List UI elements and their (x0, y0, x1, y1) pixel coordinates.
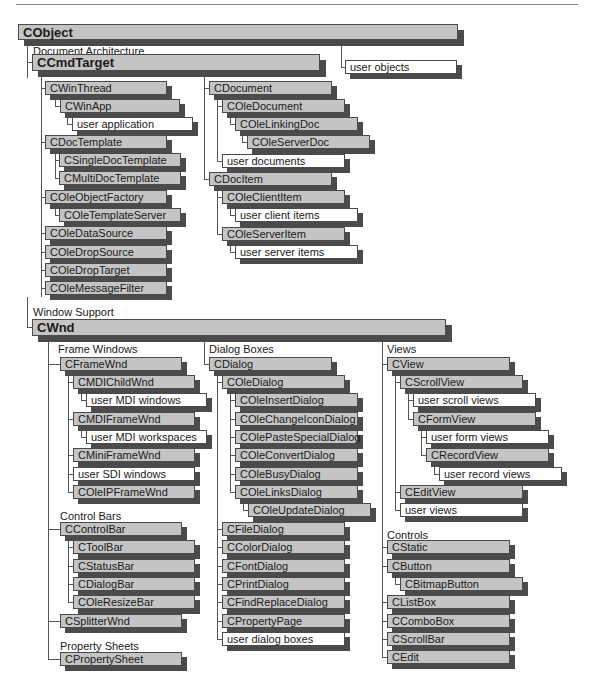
class-hierarchy-diagram: Document ArchitectureWindow SupportFrame… (0, 0, 594, 692)
class-box-cwinapp: CWinApp (60, 99, 180, 113)
class-box-coledatasource: COleDataSource (45, 226, 167, 240)
class-box-cdocument: CDocument (209, 81, 332, 95)
class-box-coledocument: COleDocument (222, 99, 345, 113)
class-box-cstatusbar: CStatusBar (73, 559, 195, 573)
class-box-user-dialog-boxes: user dialog boxes (222, 632, 345, 646)
class-box-clistbox: CListBox (387, 595, 510, 609)
class-box-cscrollview: CScrollView (400, 375, 523, 389)
connector-line (217, 371, 218, 639)
class-box-ctoolbar: CToolBar (73, 540, 195, 554)
class-box-user-mdi-windows: user MDI windows (86, 393, 207, 407)
class-box-user-objects: user objects (345, 60, 457, 74)
class-box-cdocitem: CDocItem (209, 172, 332, 186)
class-box-user-views: user views (400, 503, 523, 517)
connector-line (68, 536, 69, 602)
class-box-cpropertysheet: CPropertySheet (60, 652, 182, 666)
class-box-user-form-views: user form views (426, 430, 549, 444)
class-box-cfiledialog: CFileDialog (222, 522, 345, 536)
class-box-coleconvertdialog: COleConvertDialog (235, 448, 358, 462)
connector-line (395, 371, 396, 510)
class-box-user-server-items: user server items (235, 245, 358, 259)
class-box-cminiframewnd: CMiniFrameWnd (73, 448, 195, 462)
connector-line (382, 336, 383, 657)
class-box-cfontdialog: CFontDialog (222, 559, 345, 573)
connector-line (48, 659, 60, 660)
class-box-coleserverdoc: COleServerDoc (247, 135, 370, 149)
class-box-coleobjectfactory: COleObjectFactory (45, 190, 167, 204)
class-box-cdoctemplate: CDocTemplate (45, 135, 167, 149)
class-box-cscrollbar: CScrollBar (387, 632, 510, 646)
class-box-colemessagefilter: COleMessageFilter (45, 281, 167, 295)
group-label-dialog-boxes: Dialog Boxes (209, 343, 274, 355)
group-label-views: Views (387, 343, 416, 355)
class-box-user-record-views: user record views (439, 467, 562, 481)
header-rule (16, 4, 578, 5)
class-box-user-mdi-workspaces: user MDI workspaces (86, 430, 207, 444)
class-box-cmdiframewnd: CMDIFrameWnd (73, 412, 195, 426)
class-box-cbitmapbutton: CBitmapButton (400, 577, 523, 591)
class-box-coleclientitem: COleClientItem (222, 190, 345, 204)
class-box-colelinksdialog: COleLinksDialog (235, 485, 358, 499)
class-box-cdialogbar: CDialogBar (73, 577, 195, 591)
class-box-crecordview: CRecordView (426, 448, 549, 462)
class-box-cformview: CFormView (413, 412, 536, 426)
class-box-ccolordialog: CColorDialog (222, 540, 345, 554)
class-box-csplitterwnd: CSplitterWnd (60, 614, 182, 628)
class-box-user-scroll-views: user scroll views (413, 393, 536, 407)
class-box-cobject: CObject (18, 24, 458, 40)
class-box-cedit: CEdit (387, 650, 510, 664)
class-box-cstatic: CStatic (387, 540, 510, 554)
class-box-coledroptarget: COleDropTarget (45, 263, 167, 277)
class-box-cfindreplacedialog: CFindReplaceDialog (222, 595, 345, 609)
class-box-coletemplateserver: COleTemplateServer (59, 208, 181, 222)
class-box-cwnd: CWnd (32, 319, 446, 336)
class-box-colepastespecialdialog: COlePasteSpecialDialog (235, 430, 358, 444)
class-box-coledialog: COleDialog (222, 375, 345, 389)
class-box-cmdichildwnd: CMDIChildWnd (73, 375, 195, 389)
class-box-user-sdi-windows: user SDI windows (73, 467, 195, 481)
class-box-user-documents: user documents (222, 154, 345, 168)
class-box-cmultidoctemplate: CMultiDocTemplate (59, 171, 181, 185)
group-label-window-support: Window Support (33, 306, 114, 318)
group-label-frame-windows: Frame Windows (58, 343, 137, 355)
class-box-coledropsource: COleDropSource (45, 245, 167, 259)
connector-line (48, 621, 60, 622)
class-box-cwinthread: CWinThread (45, 81, 167, 95)
class-box-user-application: user application (72, 117, 193, 131)
class-box-cprintdialog: CPrintDialog (222, 577, 345, 591)
class-box-coleserveritem: COleServerItem (222, 227, 345, 241)
connector-line (48, 529, 60, 530)
class-box-cedittview: CEditView (400, 485, 523, 499)
class-box-user-client-items: user client items (235, 208, 358, 222)
class-box-colechangeicondialog: COleChangeIconDialog (235, 412, 358, 426)
connector-line (48, 336, 49, 659)
connector-line (217, 95, 218, 161)
class-box-colelinkingdoc: COleLinkingDoc (235, 117, 358, 131)
connector-line (27, 297, 28, 327)
group-label-control-bars: Control Bars (60, 510, 121, 522)
connector-line (230, 389, 231, 492)
class-box-coleresizebar: COleResizeBar (73, 595, 195, 609)
connector-line (48, 364, 60, 365)
connector-line (217, 186, 218, 234)
class-box-colebusydialog: COleBusyDialog (235, 467, 358, 481)
class-box-cpropertypage: CPropertyPage (222, 614, 345, 628)
class-box-coleipframewnd: COleIPFrameWnd (73, 485, 195, 499)
class-box-cbutton: CButton (387, 559, 510, 573)
class-box-cframewnd: CFrameWnd (60, 357, 182, 371)
class-box-cview: CView (387, 357, 510, 371)
group-label-property-sheets: Property Sheets (60, 640, 139, 652)
class-box-ccombobox: CComboBox (387, 614, 510, 628)
connector-line (41, 71, 42, 297)
class-box-ccmdtarget: CCmdTarget (32, 54, 320, 71)
class-box-ccontrolbar: CControlBar (60, 522, 182, 536)
class-box-cdialog: CDialog (209, 357, 332, 371)
class-box-coleupdatedialog: COleUpdateDialog (248, 503, 371, 517)
class-box-csingledoctemplate: CSingleDocTemplate (59, 153, 181, 167)
class-box-coleinsertdialog: COleInsertDialog (235, 393, 358, 407)
